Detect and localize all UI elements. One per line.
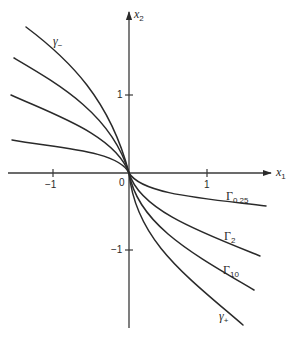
label-Gamma-2: Γ2 xyxy=(224,230,235,242)
curve-upper-4 xyxy=(12,140,129,173)
origin-label: 0 xyxy=(119,178,125,188)
y-tick-label-1: 1 xyxy=(117,90,123,100)
phase-curves-diagram xyxy=(0,0,292,338)
label-Gamma-0.25: Γ0.25 xyxy=(226,190,249,202)
gamma-plus-sub: + xyxy=(224,316,229,325)
x2-axis-label: x2 xyxy=(134,8,144,20)
x-tick-label-1: 1 xyxy=(204,180,210,190)
y-tick-label-minus-1: −1 xyxy=(111,245,122,255)
label-gamma-minus: γ− xyxy=(53,35,62,47)
Gamma-10-sub: 10 xyxy=(230,270,239,279)
Gamma-10-symbol: Γ xyxy=(223,263,230,277)
curve-upper-2 xyxy=(14,58,129,173)
x1-axis-label: x1 xyxy=(276,166,286,178)
x-tick-label-minus-1: −1 xyxy=(45,180,56,190)
x2-label-sub: 2 xyxy=(139,14,143,23)
Gamma-0.25-symbol: Γ xyxy=(226,189,233,203)
Gamma-2-symbol: Γ xyxy=(224,229,231,243)
curve-upper-3 xyxy=(11,95,129,173)
Gamma-0.25-sub: 0.25 xyxy=(233,196,249,205)
gamma-minus-sub: − xyxy=(58,41,63,50)
x1-label-sub: 1 xyxy=(281,172,285,181)
label-Gamma-10: Γ10 xyxy=(223,264,239,276)
Gamma-2-sub: 2 xyxy=(231,236,235,245)
label-gamma-plus: γ+ xyxy=(219,310,228,322)
